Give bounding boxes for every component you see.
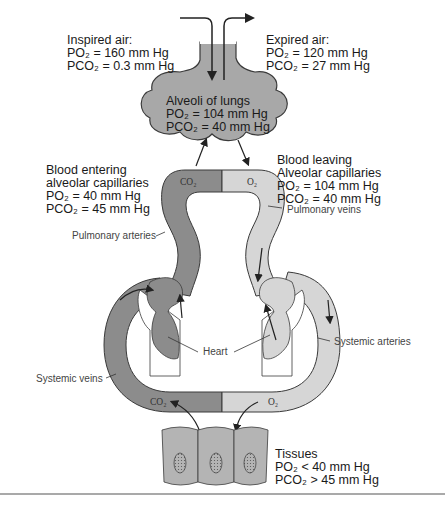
alveoli-label: Alveoli of lungs PO₂ = 104 mm Hg PCO₂ = … bbox=[166, 95, 270, 134]
lung-o2-tag: O₂ bbox=[247, 177, 257, 187]
inspired-air-pco2: PCO₂ = 0.3 mm Hg bbox=[67, 60, 174, 73]
tissues-pco2: PCO₂ > 45 mm Hg bbox=[275, 474, 379, 487]
gas-exchange-diagram: CO₂ O₂ CO₂ O₂ bbox=[0, 0, 445, 517]
pulmonary-circuit: CO₂ O₂ bbox=[162, 170, 285, 296]
blood-leaving-label: Blood leaving Alveolar capillaries PO₂ =… bbox=[277, 154, 381, 206]
expired-air-pco2: PCO₂ = 27 mm Hg bbox=[266, 60, 370, 73]
tissues-label: Tissues PO₂ < 40 mm Hg PCO₂ > 45 mm Hg bbox=[275, 448, 379, 487]
pulmonary-arteries-callout: Pulmonary arteries bbox=[72, 230, 156, 241]
lung-co2-tag: CO₂ bbox=[180, 177, 197, 187]
expired-air-label: Expired air: PO₂ = 120 mm Hg PCO₂ = 27 m… bbox=[266, 34, 370, 73]
tissue-cells bbox=[162, 427, 268, 485]
pulmonary-veins-callout: Pulmonary veins bbox=[287, 204, 361, 215]
alveoli-pco2: PCO₂ = 40 mm Hg bbox=[166, 121, 270, 134]
tissue-o2-tag: O₂ bbox=[268, 397, 278, 407]
blood-entering-pco2: PCO₂ = 45 mm Hg bbox=[46, 203, 150, 216]
tissue-co2-tag: CO₂ bbox=[150, 397, 167, 407]
systemic-arteries-callout: Systemic arteries bbox=[334, 336, 411, 347]
blood-entering-label: Blood entering alveolar capillaries PO₂ … bbox=[46, 164, 150, 216]
systemic-veins-callout: Systemic veins bbox=[36, 373, 103, 384]
inspired-air-label: Inspired air: PO₂ = 160 mm Hg PCO₂ = 0.3… bbox=[67, 34, 174, 73]
heart-callout: Heart bbox=[203, 346, 227, 357]
